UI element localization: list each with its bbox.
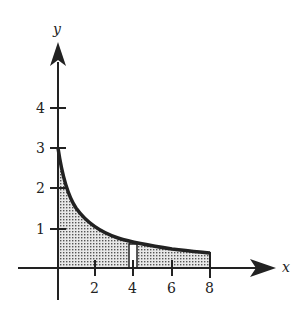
x-tick-2: 2: [90, 280, 99, 296]
chart: 2 4 6 8 1 2 3 4 x y: [0, 0, 306, 324]
x-axis-label: x: [282, 259, 290, 275]
x-tick-8: 8: [205, 280, 214, 296]
y-tick-4: 4: [36, 100, 45, 116]
x-tick-4: 4: [128, 280, 137, 296]
y-tick-2: 2: [36, 180, 45, 196]
x-tick-6: 6: [167, 280, 176, 296]
y-tick-3: 3: [36, 140, 45, 156]
y-tick-1: 1: [36, 221, 45, 237]
y-axis-label: y: [52, 21, 62, 37]
